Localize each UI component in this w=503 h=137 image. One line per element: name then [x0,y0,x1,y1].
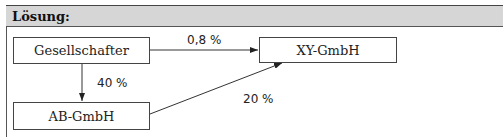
edge-ab-xy [150,63,282,114]
node-ab-gmbh: AB-GmbH [13,102,150,130]
node-label: AB-GmbH [49,109,115,124]
edge-label-0-8: 0,8 % [187,33,221,47]
node-xy-gmbh: XY-GmbH [259,37,397,63]
edge-label-40: 40 % [97,76,128,90]
node-label: Gesellschafter [34,43,129,58]
edge-label-20: 20 % [243,92,274,106]
node-label: XY-GmbH [296,43,359,58]
node-gesellschafter: Gesellschafter [13,37,150,64]
